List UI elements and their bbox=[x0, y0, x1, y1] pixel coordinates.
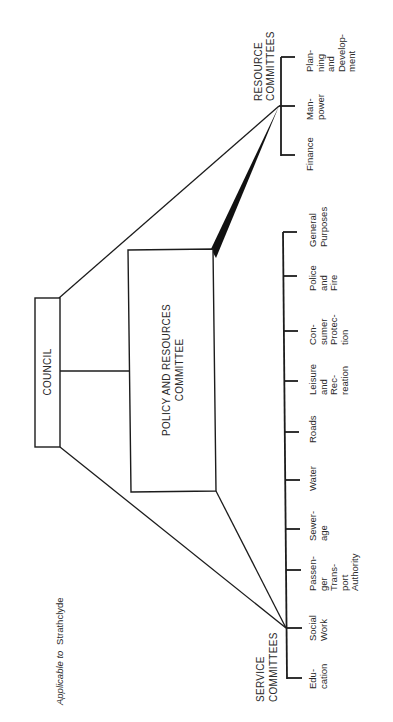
label-line: Develop- bbox=[336, 34, 347, 72]
label-line: tion bbox=[339, 330, 350, 345]
label-line: Purposes bbox=[318, 207, 329, 247]
label-line: Sewer- bbox=[307, 511, 318, 541]
service-item-water: Water bbox=[307, 466, 318, 491]
label-line: Protec- bbox=[328, 314, 339, 345]
caption-place: Strathclyde bbox=[54, 597, 65, 645]
service-item-consumer-protection: Con-sumerProtec-tion bbox=[307, 314, 350, 345]
caption: Applicable to Strathclyde bbox=[54, 597, 65, 706]
resource-item-manpower: Man-power bbox=[304, 94, 326, 120]
resource-committees-bracket bbox=[279, 57, 295, 156]
label-line: cation bbox=[318, 664, 329, 689]
label-line: Con- bbox=[307, 324, 318, 345]
label-line: Edu- bbox=[307, 669, 318, 689]
service-heading-line-1: SERVICE bbox=[255, 656, 266, 702]
resource-item-finance: Finance bbox=[304, 137, 315, 171]
service-committees-bracket bbox=[283, 232, 302, 679]
label-line: Leisure bbox=[307, 364, 318, 395]
label-line: Police bbox=[307, 265, 318, 291]
org-diagram: COUNCIL POLICY AND RESOURCES COMMITTEE R… bbox=[0, 0, 393, 722]
label-line: Roads bbox=[307, 415, 318, 443]
policy-to-resource-wedge bbox=[211, 106, 279, 258]
label-line: Man- bbox=[304, 98, 315, 120]
label-line: Rec- bbox=[328, 375, 339, 395]
label-line: Social bbox=[307, 615, 318, 641]
label-line: Passen- bbox=[307, 556, 318, 591]
label-line: and bbox=[318, 379, 329, 395]
label-line: Fire bbox=[328, 275, 339, 291]
caption-italic: Applicable to bbox=[54, 651, 65, 706]
label-line: and bbox=[325, 56, 336, 72]
label-line: ger bbox=[318, 577, 329, 591]
service-item-roads: Roads bbox=[307, 415, 318, 443]
service-item-passenger-transport-authority: Passen-gerTrans-portAuthority bbox=[307, 553, 360, 591]
label-line: Finance bbox=[304, 137, 315, 171]
label-line: ning bbox=[315, 54, 326, 72]
policy-label-line-2: COMMITTEE bbox=[174, 339, 185, 402]
label-line: Authority bbox=[349, 553, 360, 591]
service-heading-line-2: COMMITTEES bbox=[268, 632, 279, 702]
label-line: Trans- bbox=[328, 564, 339, 591]
label-line: port bbox=[339, 574, 350, 591]
label-line: Water bbox=[307, 466, 318, 491]
label-line: power bbox=[315, 94, 326, 120]
policy-to-service-line bbox=[216, 491, 286, 628]
label-line: ment bbox=[346, 51, 357, 72]
service-item-sewerage: Sewer-age bbox=[307, 511, 329, 541]
service-item-social-work: SocialWork bbox=[307, 615, 329, 641]
service-item-leisure-and-recreation: LeisureandRec-reation bbox=[307, 364, 350, 395]
label-line: General bbox=[307, 213, 318, 247]
resource-heading-line-2: COMMITTEES bbox=[265, 31, 276, 101]
label-line: Plan- bbox=[304, 50, 315, 72]
label-line: sumer bbox=[318, 319, 329, 345]
policy-label-line-1: POLICY AND RESOURCES bbox=[161, 304, 172, 436]
label-line: age bbox=[318, 525, 329, 541]
resource-item-planning-and-development: Plan-ningandDevelop-ment bbox=[304, 34, 357, 72]
label-line: and bbox=[318, 275, 329, 291]
policy-committee-box bbox=[128, 249, 216, 492]
service-item-education: Edu-cation bbox=[307, 664, 329, 689]
resource-heading-line-1: RESOURCE bbox=[253, 42, 264, 101]
label-line: Work bbox=[318, 619, 329, 641]
council-label: COUNCIL bbox=[42, 348, 53, 395]
service-item-police-and-fire: PoliceandFire bbox=[307, 265, 339, 291]
label-line: reation bbox=[339, 366, 350, 395]
service-item-general-purposes: GeneralPurposes bbox=[307, 207, 329, 247]
